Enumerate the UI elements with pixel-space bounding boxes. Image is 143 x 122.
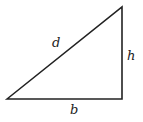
- height-label: h: [127, 49, 135, 62]
- triangle-shape: [7, 7, 122, 99]
- hypotenuse-label: d: [52, 36, 60, 49]
- base-label: b: [70, 103, 78, 116]
